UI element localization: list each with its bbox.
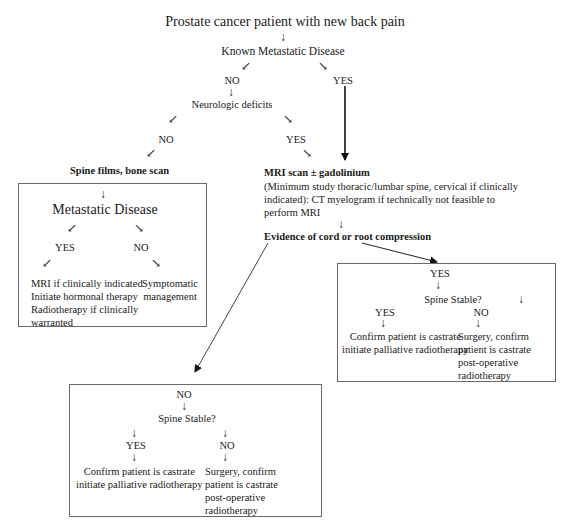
action-line: patient is castrate (458, 343, 531, 356)
stable-no-actions: Surgery, confirm patient is castrate pos… (205, 465, 278, 517)
flowchart-title: Prostate cancer patient with new back pa… (165, 14, 404, 30)
known-yes-label: YES (333, 74, 353, 87)
action-line: Surgery, confirm (205, 465, 278, 478)
action-line: patient is castrate (205, 478, 278, 491)
down-arrow-icon: ↓ (222, 451, 228, 463)
metastatic-no-actions: Symptomatic management (142, 277, 198, 303)
action-line: post-operative (205, 491, 278, 504)
down-right-arrow-icon: ↘ (302, 147, 312, 159)
down-right-arrow-icon: ↘ (151, 257, 161, 269)
down-arrow-icon: ↓ (131, 451, 137, 463)
down-left-arrow-icon: ↙ (168, 113, 178, 125)
down-right-arrow-icon: ↘ (318, 60, 328, 72)
action-line: Initiate hormonal therapy (31, 290, 143, 303)
down-right-arrow-icon: ↘ (283, 113, 293, 125)
action-line: Confirm patient is castrate (76, 465, 203, 478)
down-arrow-icon: ↓ (222, 427, 228, 439)
down-arrow-icon: ↓ (435, 279, 441, 291)
neurologic-deficits-node: Neurologic deficits (192, 98, 273, 111)
down-arrow-icon: ↓ (518, 293, 524, 305)
action-line: Radiotherapy if clinically (31, 303, 143, 316)
mri-detail-line: perform MRI (264, 206, 518, 219)
down-arrow-icon: ↓ (100, 188, 106, 200)
action-line: warranted (31, 316, 143, 329)
spine-stable-node: Spine Stable? (424, 293, 481, 306)
spine-films-heading: Spine films, bone scan (70, 164, 169, 177)
metastatic-disease-box: ↓ Metastatic Disease ↙ ↘ YES NO ↙ ↘ MRI … (18, 183, 207, 327)
down-arrow-icon: ↓ (228, 86, 234, 98)
down-left-arrow-icon: ↙ (146, 147, 156, 159)
mri-heading: MRI scan ± gadolinium (264, 166, 370, 179)
metastatic-yes-actions: MRI if clinically indicated Initiate hor… (31, 277, 143, 329)
neuro-yes-label: YES (286, 133, 306, 146)
action-line: radiotherapy (205, 504, 278, 517)
down-arrow-icon: ↓ (131, 427, 137, 439)
down-left-arrow-icon: ↙ (67, 222, 77, 234)
metastatic-disease-node: Metastatic Disease (52, 202, 157, 218)
down-right-arrow-icon: ↘ (134, 222, 144, 234)
stable-yes-actions: Confirm patient is castrate initiate pal… (342, 330, 469, 356)
mri-detail-line: (Minimum study thoracic/lumbar spine, ce… (264, 180, 518, 193)
stable-yes-actions: Confirm patient is castrate initiate pal… (76, 465, 203, 491)
action-line: management (142, 290, 198, 303)
down-arrow-icon: ↓ (475, 317, 481, 329)
down-left-arrow-icon: ↙ (42, 257, 52, 269)
action-line: initiate palliative radiotherapy (76, 478, 203, 491)
action-line: Symptomatic (142, 277, 198, 290)
evidence-to-yes-arrow (362, 243, 437, 262)
action-line: Confirm patient is castrate (342, 330, 469, 343)
down-arrow-icon: ↓ (280, 31, 286, 43)
metastatic-no-label: NO (133, 241, 148, 254)
action-line: initiate palliative radiotherapy (342, 343, 469, 356)
action-line: Surgery, confirm (458, 330, 531, 343)
spine-stable-node: Spine Stable? (158, 412, 215, 425)
metastatic-yes-label: YES (55, 241, 75, 254)
action-line: MRI if clinically indicated (31, 277, 143, 290)
compression-yes-box: YES ↓ Spine Stable? ↓ YES NO ↓ ↓ Confirm… (337, 263, 556, 382)
mri-detail-line: indicated): CT myelogram if technically … (264, 193, 518, 206)
stable-no-actions: Surgery, confirm patient is castrate pos… (458, 330, 531, 382)
down-arrow-icon: ↓ (338, 218, 344, 230)
action-line: post-operative (458, 356, 531, 369)
neuro-no-label: NO (158, 133, 173, 146)
mri-details: (Minimum study thoracic/lumbar spine, ce… (264, 180, 518, 219)
cord-compression-node: Evidence of cord or root compression (264, 230, 431, 243)
down-left-arrow-icon: ↙ (241, 60, 251, 72)
down-arrow-icon: ↓ (181, 400, 187, 412)
known-metastatic-node: Known Metastatic Disease (221, 45, 344, 58)
compression-no-box: NO ↓ Spine Stable? ↓ ↓ YES NO ↓ ↓ Confir… (69, 384, 322, 517)
action-line: radiotherapy (458, 369, 531, 382)
down-arrow-icon: ↓ (380, 317, 386, 329)
